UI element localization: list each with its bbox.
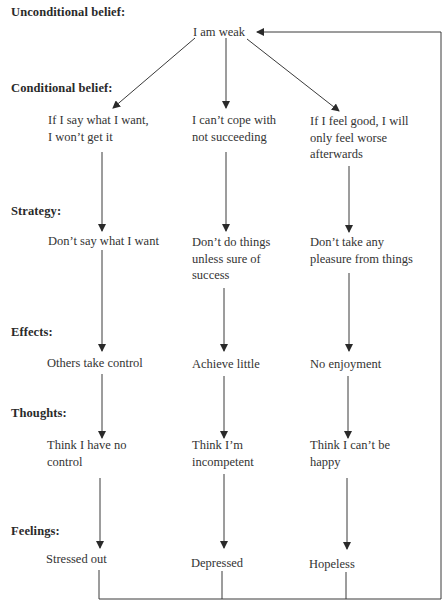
connector-lines [0, 0, 447, 612]
arrow-root-to-col1 [113, 38, 195, 108]
arrow-root-to-col3 [247, 39, 339, 111]
